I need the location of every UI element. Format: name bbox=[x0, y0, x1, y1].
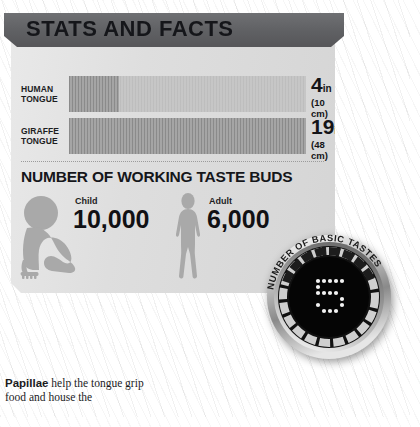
bar-value-human-tongue: 4in (10 cm) bbox=[311, 74, 335, 119]
bar-value-giraffe-tongue: 19in (48 cm) bbox=[311, 116, 343, 161]
bar-value-number: 19 bbox=[311, 115, 334, 138]
child-taste-bud-count: 10,000 bbox=[73, 207, 149, 232]
baby-silhouette-icon bbox=[19, 194, 77, 280]
tongue-length-bar-chart: HUMAN TONGUE 4in (10 cm) GIRAFFE TONGUE bbox=[11, 72, 335, 158]
bar-value-unit: in bbox=[323, 83, 332, 94]
adult-taste-bud-count: 6,000 bbox=[207, 207, 270, 232]
section-divider bbox=[21, 161, 325, 162]
bar-row-giraffe-tongue: GIRAFFE TONGUE 19in (48 cm) bbox=[11, 118, 335, 154]
dial-arc-label-text: NUMBER OF BASIC TASTES bbox=[265, 233, 383, 290]
papillae-caption: Papillae help the tongue grip food and h… bbox=[5, 376, 155, 404]
bar-value-metric: (48 cm) bbox=[311, 139, 343, 161]
bar-fill-giraffe-tongue bbox=[69, 118, 306, 154]
taste-buds-heading: NUMBER OF WORKING TASTE BUDS bbox=[21, 168, 292, 186]
bar-track-giraffe-tongue bbox=[69, 118, 306, 154]
card-header-ribbon: STATS AND FACTS bbox=[4, 13, 344, 47]
bar-value-unit: in bbox=[334, 125, 343, 136]
bar-track-human-tongue bbox=[69, 76, 306, 112]
bar-row-human-tongue: HUMAN TONGUE 4in (10 cm) bbox=[11, 76, 335, 112]
caption-lead-word: Papillae bbox=[5, 377, 48, 389]
bar-value-number: 4 bbox=[311, 73, 323, 96]
page-title: STATS AND FACTS bbox=[26, 16, 234, 42]
basic-tastes-dial-badge: NUMBER OF BASIC TASTES bbox=[265, 233, 393, 361]
svg-text:NUMBER OF BASIC TASTES: NUMBER OF BASIC TASTES bbox=[265, 233, 383, 290]
adult-silhouette-icon bbox=[171, 192, 205, 282]
bar-fill-human-tongue bbox=[69, 76, 119, 112]
dial-arc-label: NUMBER OF BASIC TASTES bbox=[265, 233, 393, 361]
